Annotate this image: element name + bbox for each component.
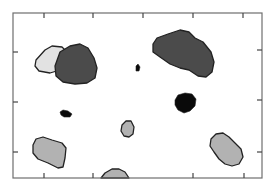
black-blob-right xyxy=(175,93,196,113)
figure-canvas xyxy=(0,0,271,191)
dark-blob-top-right xyxy=(153,30,214,77)
blob-figure xyxy=(0,0,271,191)
gray-blob-bottom-center xyxy=(101,169,129,178)
gray-blob-bottom-left xyxy=(33,137,66,168)
black-blob-left xyxy=(60,110,72,117)
gray-blob-right xyxy=(210,133,243,166)
blobs-layer xyxy=(33,30,243,178)
gray-blob-center-small xyxy=(121,121,134,137)
black-dot-center xyxy=(136,64,140,71)
